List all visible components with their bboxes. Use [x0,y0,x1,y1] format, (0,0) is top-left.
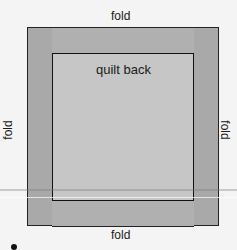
label-fold-bottom: fold [111,228,130,242]
scan-artifact-line [0,189,237,191]
scan-artifact-line-light [0,197,237,198]
label-fold-left: fold [1,120,15,139]
bullet-dot-icon [11,244,17,250]
label-fold-top: fold [111,9,130,23]
label-fold-right: fold [218,120,232,139]
label-quilt-back: quilt back [96,63,151,77]
bottom-fold-band [52,200,194,227]
top-fold-band [52,27,194,54]
